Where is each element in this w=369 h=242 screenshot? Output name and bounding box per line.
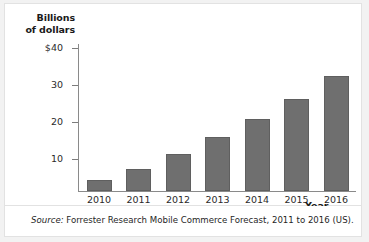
bar-2013 — [205, 137, 230, 191]
x-tick-label-2010: 2010 — [79, 194, 119, 205]
bar-2011 — [126, 169, 151, 191]
bar-2015 — [284, 99, 309, 192]
bar-2016 — [324, 76, 349, 191]
bar-2010 — [87, 180, 112, 191]
bar-2012 — [166, 154, 191, 191]
y-tick-label-10: 10 — [21, 153, 63, 164]
source-note: Source: Forrester Research Mobile Commer… — [4, 206, 362, 237]
source-text: Forrester Research Mobile Commerce Forec… — [66, 215, 353, 225]
y-tick-label-40: $40 — [21, 42, 63, 53]
y-tick-mark-40 — [72, 48, 78, 49]
source-label: Source: — [31, 215, 64, 225]
x-tick-label-2012: 2012 — [158, 194, 198, 205]
plot-area: Billions of dollars $40 30 20 10 2010201… — [5, 4, 361, 205]
x-tick-label-2013: 2013 — [198, 194, 238, 205]
y-tick-mark-10 — [72, 159, 78, 160]
x-axis-line — [78, 191, 356, 192]
y-tick-label-20: 20 — [21, 116, 63, 127]
figure-container: Billions of dollars $40 30 20 10 2010201… — [0, 0, 369, 242]
y-axis-title-line-2: of dollars — [7, 24, 75, 36]
x-tick-label-2014: 2014 — [237, 194, 277, 205]
chart-card: Billions of dollars $40 30 20 10 2010201… — [4, 3, 362, 206]
bar-2014 — [245, 119, 270, 191]
x-tick-label-2011: 2011 — [119, 194, 159, 205]
y-tick-mark-30 — [72, 85, 78, 86]
y-tick-label-30: 30 — [21, 79, 63, 90]
y-tick-mark-20 — [72, 122, 78, 123]
y-axis-line — [78, 44, 79, 191]
y-axis-title-line-1: Billions — [7, 12, 75, 24]
y-axis-title: Billions of dollars — [7, 12, 75, 35]
